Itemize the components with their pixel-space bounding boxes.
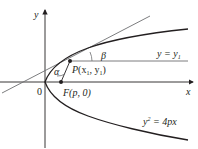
point-F-label: F(p, 0) [62,87,91,99]
point-P-label: P(x1, y1) [71,64,106,76]
point-P [68,59,72,63]
y-axis-label: y [33,9,39,20]
horizontal-line-label: y = y1 [156,48,181,60]
beta-arc [90,52,92,61]
tangent-line [2,16,150,93]
alpha-label: α [54,66,60,77]
curve-equation-label: y2 = 4px [142,116,177,127]
focal-segment [61,61,70,82]
parabola-tangent-diagram: y x 0 α β P(x1, y1) F(p, 0) y = y1 y2 = … [0,0,198,149]
beta-label: β [100,50,106,61]
point-F [59,80,63,84]
origin-label: 0 [37,86,42,97]
x-axis-label: x [185,86,191,97]
